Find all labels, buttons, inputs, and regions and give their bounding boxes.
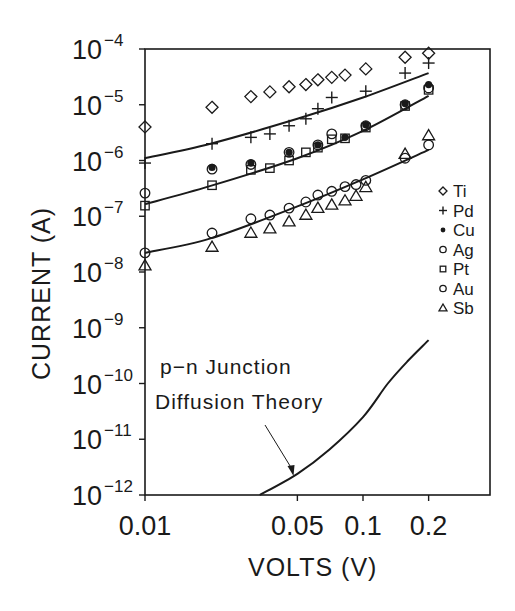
y-tick-label: 10−4 (72, 31, 123, 65)
dot-marker (285, 149, 292, 156)
circle-marker (424, 140, 434, 150)
plus-marker (326, 91, 338, 103)
y-tick-label: 10−6 (72, 143, 123, 177)
plus-marker (423, 57, 435, 69)
dot-marker (314, 141, 321, 148)
circle-marker (246, 214, 256, 224)
diamond-marker (300, 79, 312, 91)
legend-item-ti: Ti (439, 182, 467, 201)
diamond-marker (312, 74, 324, 86)
triangle-marker (300, 209, 312, 219)
diamond-marker (264, 86, 276, 98)
plus-marker (439, 207, 447, 215)
x-tick-label: 0.1 (344, 511, 382, 541)
plus-marker (399, 67, 411, 79)
legend-label: Pd (453, 202, 474, 221)
diamond-marker (439, 187, 447, 195)
annotation: p−n Junction Diffusion Theory (155, 355, 323, 476)
y-tick-label: 10−12 (72, 477, 133, 511)
circle-marker (440, 285, 446, 291)
data-points (139, 47, 435, 270)
legend-label: Sb (453, 299, 474, 318)
legend-item-ag: Ag (440, 241, 474, 260)
legend-item-au: Au (440, 280, 474, 299)
plot-frame (145, 49, 490, 495)
y-axis-ticks: 10−410−510−610−710−810−910−1010−1110−12 (72, 31, 145, 511)
x-tick-label: 0.01 (119, 511, 172, 541)
y-tick-label: 10−11 (72, 421, 132, 455)
plus-marker (206, 138, 218, 150)
legend-label: Au (453, 280, 474, 299)
diamond-marker (283, 81, 295, 93)
diamond-marker (326, 71, 338, 83)
legend-item-cu: Cu (441, 221, 475, 240)
plus-marker (139, 157, 151, 169)
diamond-marker (206, 101, 218, 113)
legend: TiPdCuAgPtAuSb (439, 182, 475, 318)
legend-item-pt: Pt (440, 260, 469, 279)
y-tick-label: 10−5 (72, 87, 123, 121)
circle-marker (327, 129, 337, 139)
series-cu (208, 81, 432, 171)
fit-line (145, 73, 429, 158)
series-ti (139, 47, 435, 133)
arrowhead-icon (288, 465, 295, 476)
diamond-marker (245, 91, 257, 103)
triangle-marker (439, 304, 447, 311)
x-tick-label: 0.2 (410, 511, 448, 541)
triangle-marker (326, 199, 338, 209)
iv-chart: 10−410−510−610−710−810−910−1010−1110−12 … (0, 0, 515, 611)
legend-label: Ag (453, 241, 474, 260)
plot-border (145, 49, 490, 495)
annotation-line-2: Diffusion Theory (155, 390, 323, 413)
triangle-marker (312, 202, 324, 212)
series-au (140, 140, 433, 258)
legend-item-sb: Sb (439, 299, 474, 318)
legend-item-pd: Pd (439, 202, 474, 221)
triangle-marker (206, 241, 218, 251)
triangle-marker (245, 227, 257, 237)
diamond-marker (339, 69, 351, 81)
y-tick-label: 10−10 (72, 366, 133, 400)
legend-label: Ti (453, 182, 467, 201)
triangle-marker (283, 216, 295, 226)
x-tick-label: 0.05 (271, 511, 324, 541)
triangle-marker (264, 223, 276, 233)
y-tick-label: 10−7 (72, 198, 123, 232)
annotation-line-1: p−n Junction (160, 355, 292, 378)
plus-marker (264, 128, 276, 140)
series-ag (140, 83, 433, 198)
dot-marker (441, 228, 446, 233)
fit-lines (145, 73, 429, 495)
triangle-marker (339, 195, 351, 205)
diamond-marker (360, 63, 372, 75)
y-tick-label: 10−9 (72, 310, 123, 344)
square-marker (440, 266, 446, 272)
circle-marker (440, 246, 446, 252)
triangle-marker (423, 130, 435, 140)
annotation-arrow (265, 425, 293, 470)
circle-marker (207, 228, 217, 238)
legend-label: Pt (453, 260, 469, 279)
y-axis-title: CURRENT (A) (27, 207, 55, 380)
y-tick-label: 10−8 (72, 254, 123, 288)
legend-label: Cu (453, 221, 475, 240)
x-axis-title: VOLTS (V) (248, 553, 377, 581)
dot-marker (341, 134, 348, 141)
x-axis-ticks: 0.010.050.10.2 (119, 495, 448, 541)
diamond-marker (399, 51, 411, 63)
